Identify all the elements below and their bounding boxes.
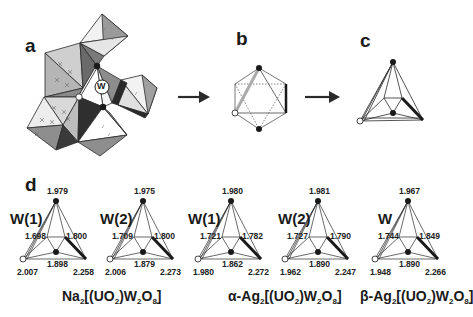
bond-bottom-left: 1.962: [280, 268, 301, 277]
bond-right-mid: 1.790: [330, 232, 351, 241]
bond-right-mid: 1.849: [419, 232, 440, 241]
site-label: W(2): [278, 211, 311, 226]
bond-center-bottom: 1.879: [133, 260, 156, 269]
bond-bottom-right: 2.266: [425, 268, 446, 277]
bond-bottom-left: 1.980: [193, 268, 214, 277]
arrow-right-icon: [305, 91, 340, 103]
bond-bottom-left: 2.007: [17, 268, 38, 277]
compound-formula-alpha-ag: α-Ag2[(UO2)W2O8]: [228, 289, 342, 306]
bond-top: 1.975: [134, 187, 155, 196]
compound-formula-na: Na2[(UO2)W2O8]: [62, 289, 162, 306]
bond-bottom-right: 2.258: [73, 268, 94, 277]
panel-label-a: a: [25, 36, 36, 55]
bond-bottom-right: 2.272: [248, 268, 269, 277]
bond-center-bottom: 1.890: [398, 260, 421, 269]
bond-center-bottom: 1.898: [46, 260, 69, 269]
bond-bottom-left: 1.948: [370, 268, 391, 277]
bond-top: 1.981: [309, 187, 330, 196]
panel-label-b: b: [236, 29, 248, 48]
bond-left-mid: 1.721: [200, 232, 221, 241]
site-label: W(2): [100, 211, 133, 226]
bond-left-mid: 1.698: [25, 232, 46, 241]
site-label: W(1): [188, 211, 221, 226]
tungsten-center-label: W: [97, 82, 106, 91]
site-label: W: [378, 211, 392, 226]
bond-bottom-right: 2.273: [160, 268, 181, 277]
bond-left-mid: 1.709: [112, 232, 133, 241]
bond-right-mid: 1.800: [154, 232, 175, 241]
bond-bottom-right: 2.247: [335, 268, 356, 277]
bond-top: 1.980: [222, 187, 243, 196]
bond-left-mid: 1.744: [378, 232, 399, 241]
bond-right-mid: 1.782: [242, 232, 263, 241]
panel-label-c: c: [360, 31, 371, 50]
bond-right-mid: 1.800: [66, 232, 87, 241]
arrow-right-icon: [178, 91, 210, 103]
panel-label-d: d: [25, 175, 37, 194]
bond-left-mid: 1.727: [287, 232, 308, 241]
bond-center-bottom: 1.890: [308, 260, 331, 269]
bond-top: 1.967: [399, 187, 420, 196]
site-label: W(1): [10, 211, 43, 226]
bond-top: 1.979: [47, 187, 68, 196]
bond-bottom-left: 2.006: [105, 268, 126, 277]
bond-center-bottom: 1.862: [221, 260, 244, 269]
compound-formula-beta-ag: β-Ag2[(UO2)W2O8]: [360, 289, 473, 306]
